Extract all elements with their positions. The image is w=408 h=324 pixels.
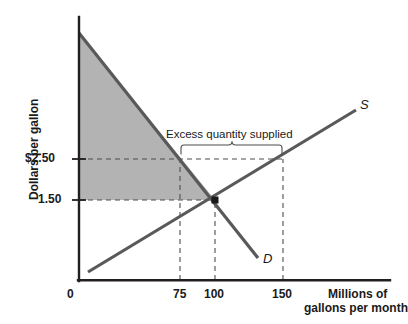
y-tick-label-150: 1.50 bbox=[38, 193, 61, 206]
y-tick-label-250: $2.50 bbox=[25, 152, 55, 165]
x-axis-title-line1: Millions of bbox=[328, 288, 387, 301]
x-tick-label-100: 100 bbox=[204, 288, 224, 301]
equilibrium-point-marker bbox=[212, 197, 219, 204]
x-tick-label-150: 150 bbox=[272, 288, 292, 301]
y-axis-title: Dollars per gallon bbox=[28, 99, 41, 200]
supply-curve-label: S bbox=[360, 98, 369, 113]
x-tick-label-75: 75 bbox=[173, 288, 186, 301]
excess-quantity-supplied-label: Excess quantity supplied bbox=[166, 128, 293, 141]
x-axis-title-line2: gallons per month bbox=[304, 302, 408, 315]
x-tick-label-origin: 0 bbox=[67, 288, 74, 301]
demand-curve-label: D bbox=[263, 252, 272, 267]
